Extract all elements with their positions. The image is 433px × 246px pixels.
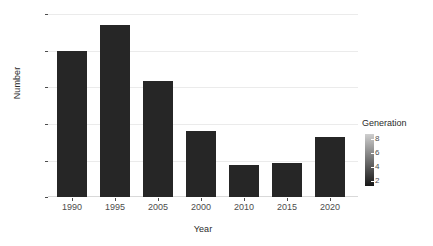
x-tick-mark-2010 [244,198,245,201]
y-tick-mark-0 [45,197,48,198]
y-axis-title: Number [12,48,22,118]
legend-tick-label-8: 8 [375,135,401,143]
x-tick-label-2000: 2000 [178,202,224,212]
bar-2000 [186,131,216,197]
x-tick-mark-1990 [72,198,73,201]
x-tick-label-1990: 1990 [49,202,95,212]
legend-tick-label-2: 2 [375,177,401,185]
legend-tick-label-6: 6 [375,149,401,157]
x-tick-label-2015: 2015 [264,202,310,212]
legend-colorbar-group: 8 6 4 2 [362,134,432,192]
legend: Generation 8 6 4 2 [362,118,432,192]
legend-colorbar [365,134,374,186]
bar-1990 [57,51,87,197]
x-tick-mark-2020 [330,198,331,201]
bar-2020 [315,137,345,197]
bar-chart: Number 600 400 300 200 100 0 [0,0,433,246]
x-tick-label-1995: 1995 [92,202,138,212]
legend-tick-mark-6 [371,153,374,154]
bar-2015 [272,163,302,197]
x-tick-label-2020: 2020 [307,202,353,212]
legend-title: Generation [362,118,432,128]
x-axis-title: Year [48,224,358,234]
x-tick-mark-2000 [201,198,202,201]
bar-2005 [143,81,173,197]
bar-series [48,8,358,197]
x-tick-label-2010: 2010 [221,202,267,212]
bar-1995 [100,25,130,197]
plot-panel [48,8,358,197]
legend-tick-mark-8 [371,139,374,140]
x-tick-label-2005: 2005 [135,202,181,212]
legend-tick-mark-4 [371,167,374,168]
x-tick-mark-2005 [158,198,159,201]
x-tick-mark-1995 [115,198,116,201]
legend-tick-mark-2 [371,181,374,182]
legend-tick-label-4: 4 [375,163,401,171]
bar-2010 [229,165,259,197]
x-tick-mark-2015 [287,198,288,201]
